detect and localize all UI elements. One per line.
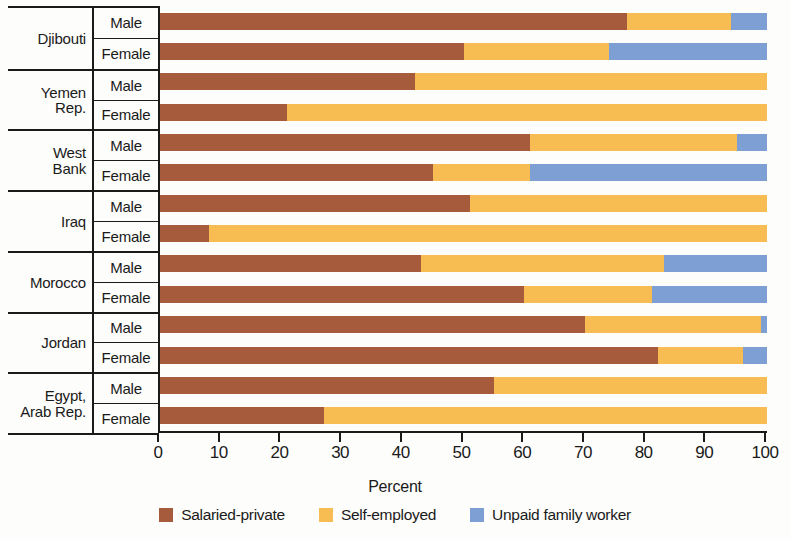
country-label-line: Rep. <box>41 100 86 115</box>
bar-segment-salaried-private <box>160 225 209 242</box>
stacked-bar <box>160 13 767 30</box>
x-axis-tick-labels: 0102030405060708090100 <box>158 443 765 465</box>
bar-row <box>160 310 767 340</box>
country-group: Egypt,Arab Rep.MaleFemale <box>8 372 158 433</box>
sex-label: Female <box>94 38 158 69</box>
stacked-bar-chart: DjiboutiMaleFemaleYemenRep.MaleFemaleWes… <box>0 0 790 539</box>
bar-segment-unpaid-family-worker <box>652 286 767 303</box>
sex-label: Female <box>94 160 158 190</box>
legend-label: Unpaid family worker <box>492 506 631 524</box>
legend-item[interactable]: Salaried-private <box>159 506 285 524</box>
bar-segment-self-employed <box>415 73 767 90</box>
bar-group <box>160 370 767 431</box>
x-axis-tick <box>521 433 523 442</box>
bar-segment-salaried-private <box>160 164 433 181</box>
stacked-bar <box>160 134 767 151</box>
country-label: Iraq <box>8 192 92 251</box>
bar-segment-self-employed <box>421 255 664 272</box>
sex-label: Male <box>94 314 158 343</box>
sex-label-stack: MaleFemale <box>92 131 158 190</box>
x-axis-tick-label: 90 <box>695 443 713 463</box>
bar-segment-unpaid-family-worker <box>761 316 767 333</box>
sex-label: Male <box>94 253 158 282</box>
bar-group <box>160 188 767 249</box>
bar-segment-self-employed <box>433 164 530 181</box>
bar-row <box>160 36 767 66</box>
country-label: Egypt,Arab Rep. <box>8 374 92 433</box>
country-label-line: West <box>53 145 86 160</box>
country-label-line: Djibouti <box>38 31 86 46</box>
country-group: WestBankMaleFemale <box>8 129 158 190</box>
bar-segment-self-employed <box>530 134 736 151</box>
x-axis-tick-label: 70 <box>574 443 592 463</box>
bar-segment-unpaid-family-worker <box>731 13 767 30</box>
bar-row <box>160 279 767 309</box>
sex-label-stack: MaleFemale <box>92 8 158 69</box>
sex-label-stack: MaleFemale <box>92 192 158 251</box>
country-label-line: Yemen <box>41 85 86 100</box>
bar-segment-self-employed <box>287 104 767 121</box>
x-axis-tick <box>582 433 584 442</box>
bar-segment-salaried-private <box>160 104 287 121</box>
bar-segment-salaried-private <box>160 255 421 272</box>
category-label-column: DjiboutiMaleFemaleYemenRep.MaleFemaleWes… <box>8 6 158 435</box>
bar-segment-salaried-private <box>160 347 658 364</box>
bar-segment-salaried-private <box>160 286 524 303</box>
bar-segment-self-employed <box>658 347 743 364</box>
legend-label: Self-employed <box>341 506 436 524</box>
x-axis-title: Percent <box>0 478 790 496</box>
x-axis-tick <box>400 433 402 442</box>
stacked-bar <box>160 73 767 90</box>
legend-swatch-icon <box>159 508 173 522</box>
bar-segment-unpaid-family-worker <box>664 255 767 272</box>
bar-group <box>160 127 767 188</box>
country-label-line: Iraq <box>61 214 86 229</box>
x-axis-tick <box>339 433 341 442</box>
sex-label: Female <box>94 221 158 251</box>
stacked-bar <box>160 164 767 181</box>
bar-segment-self-employed <box>524 286 651 303</box>
x-axis-tick-label: 80 <box>635 443 653 463</box>
x-axis-ticks <box>158 433 765 442</box>
x-axis-tick <box>278 433 280 442</box>
x-axis-tick-label: 0 <box>154 443 163 463</box>
x-axis-tick <box>461 433 463 442</box>
x-axis-tick-label: 60 <box>513 443 531 463</box>
bar-segment-self-employed <box>464 43 610 60</box>
stacked-bar <box>160 407 767 424</box>
sex-label: Female <box>94 403 158 433</box>
bar-row <box>160 401 767 431</box>
bar-segment-self-employed <box>585 316 761 333</box>
legend-item[interactable]: Self-employed <box>319 506 436 524</box>
sex-label-stack: MaleFemale <box>92 374 158 433</box>
sex-label: Female <box>94 100 158 130</box>
sex-label: Male <box>94 374 158 403</box>
stacked-bar <box>160 255 767 272</box>
x-axis-tick <box>157 433 159 442</box>
stacked-bar <box>160 347 767 364</box>
sex-label-stack: MaleFemale <box>92 71 158 130</box>
country-label: Jordan <box>8 314 92 373</box>
bar-segment-self-employed <box>209 225 767 242</box>
country-label-line: Morocco <box>30 275 86 290</box>
stacked-bar <box>160 104 767 121</box>
sex-label: Female <box>94 342 158 372</box>
country-group: YemenRep.MaleFemale <box>8 69 158 130</box>
bar-group <box>160 310 767 371</box>
legend-item[interactable]: Unpaid family worker <box>470 506 631 524</box>
stacked-bar <box>160 316 767 333</box>
bar-row <box>160 188 767 218</box>
bar-segment-self-employed <box>470 195 767 212</box>
bar-segment-salaried-private <box>160 195 470 212</box>
sex-label: Male <box>94 71 158 100</box>
bar-segment-self-employed <box>324 407 767 424</box>
bar-segment-salaried-private <box>160 407 324 424</box>
sex-label-stack: MaleFemale <box>92 314 158 373</box>
bar-segment-salaried-private <box>160 316 585 333</box>
country-label: Morocco <box>8 253 92 312</box>
bar-group <box>160 6 767 67</box>
bar-row <box>160 127 767 157</box>
bar-segment-salaried-private <box>160 13 627 30</box>
legend-swatch-icon <box>470 508 484 522</box>
x-axis-tick-label: 100 <box>752 443 779 463</box>
